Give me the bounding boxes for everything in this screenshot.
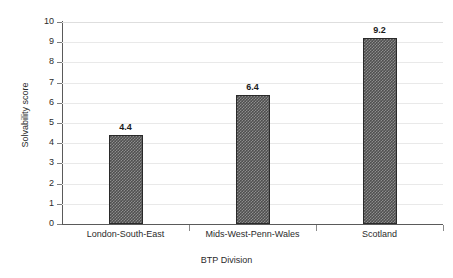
gridline — [62, 224, 443, 225]
y-axis-tick-label: 4 — [30, 138, 54, 147]
bar — [363, 38, 397, 224]
y-axis-tick-label: 2 — [30, 179, 54, 188]
bar — [236, 95, 270, 224]
y-axis-tick-label: 7 — [30, 78, 54, 87]
gridline — [62, 22, 443, 23]
y-axis-tick-label: 3 — [30, 158, 54, 167]
bar-value-label: 6.4 — [223, 83, 283, 92]
bar — [109, 135, 143, 224]
y-axis-tick-label: 10 — [30, 17, 54, 26]
y-axis-tick-label: 1 — [30, 199, 54, 208]
y-axis-title: Solvability score — [20, 35, 30, 195]
y-axis-tick-label: 6 — [30, 98, 54, 107]
running-head-text: Act Nilsson et al. — [386, 0, 445, 1]
bar-chart-figure: Act Nilsson et al. Solvability score BTP… — [0, 0, 453, 278]
x-axis-title: BTP Division — [0, 255, 453, 265]
y-axis-tick-label: 9 — [30, 37, 54, 46]
y-axis-tick-label: 5 — [30, 118, 54, 127]
bar-value-label: 9.2 — [350, 26, 410, 35]
x-axis-category-label: Scotland — [290, 229, 453, 239]
y-axis-tick-label: 8 — [30, 57, 54, 66]
y-axis-tick-label: 0 — [30, 219, 54, 228]
bar-value-label: 4.4 — [96, 123, 156, 132]
